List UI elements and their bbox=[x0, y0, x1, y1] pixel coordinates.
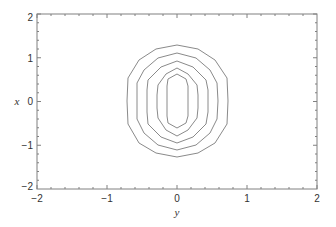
y-axis-ticks bbox=[37, 14, 317, 180]
y-tick-label: 0 bbox=[27, 96, 33, 107]
x-tick-label: −1 bbox=[101, 193, 113, 204]
y-tick-label: 2 bbox=[27, 12, 33, 23]
x-axis-label: y bbox=[174, 206, 180, 218]
y-tick-label: −2 bbox=[22, 181, 34, 192]
y-tick-label: 1 bbox=[27, 53, 33, 64]
x-tick-label: −2 bbox=[31, 193, 43, 204]
y-tick-label: −1 bbox=[22, 140, 34, 151]
y-tick-labels: 2 1 0 −1 −2 bbox=[22, 12, 34, 192]
y-axis-label: x bbox=[14, 95, 20, 107]
x-tick-label: 2 bbox=[314, 193, 320, 204]
x-axis-ticks bbox=[37, 14, 317, 189]
contour-level-3 bbox=[147, 61, 208, 143]
x-tick-labels: −2 −1 0 1 2 bbox=[31, 193, 320, 204]
contour-lines bbox=[127, 45, 228, 157]
x-tick-label: 0 bbox=[174, 193, 180, 204]
contour-level-4 bbox=[157, 68, 198, 136]
contour-level-1 bbox=[127, 45, 228, 157]
contour-level-5 bbox=[167, 74, 188, 128]
contour-plot: −2 −1 0 1 2 2 1 0 −1 −2 y x bbox=[0, 0, 336, 227]
x-tick-label: 1 bbox=[244, 193, 250, 204]
plot-frame bbox=[37, 14, 317, 189]
